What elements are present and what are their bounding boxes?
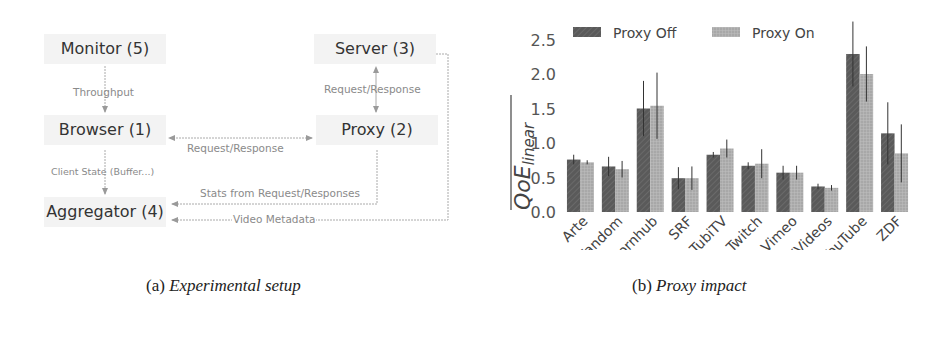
- y-tick-label: 1.5: [531, 100, 556, 119]
- bar-group-youtube: [846, 22, 873, 212]
- caption-a-prefix: (a): [146, 276, 165, 295]
- caption-b-title: Proxy impact: [656, 276, 746, 295]
- bar-proxy-on: [580, 162, 594, 212]
- bar-group-twitch: [741, 149, 768, 212]
- bar-chart: 0.00.51.01.52.02.5 ArteFandomPornhubSRFT…: [500, 0, 951, 250]
- bar-group-srf: [672, 166, 699, 212]
- node-monitor: Monitor (5): [44, 34, 166, 64]
- legend-swatch-proxy-off: [573, 27, 601, 37]
- edge-label-video-metadata: Video Metadata: [232, 213, 316, 225]
- node-server: Server (3): [314, 34, 436, 64]
- bar-proxy-off: [811, 186, 825, 212]
- experimental-setup-diagram: Monitor (5) Server (3) Browser (1) Proxy…: [0, 0, 470, 250]
- bar-group-zdf: [881, 102, 908, 212]
- edge-label-throughput: Throughput: [73, 86, 134, 98]
- bar-proxy-off: [567, 160, 581, 212]
- bar-group-fandom: [602, 157, 629, 212]
- y-tick-label: 2.5: [531, 31, 556, 50]
- legend: Proxy OffProxy On: [573, 25, 815, 41]
- legend-label-proxy-on: Proxy On: [752, 25, 815, 41]
- node-browser: Browser (1): [44, 115, 166, 145]
- svg-text:QoElinear: QoElinear: [510, 122, 538, 210]
- node-proxy: Proxy (2): [316, 115, 438, 145]
- node-aggregator: Aggregator (4): [44, 197, 166, 227]
- bar-proxy-on: [825, 188, 839, 212]
- x-tick-label: ZDF: [873, 213, 904, 244]
- bar-group-pornhub: [637, 73, 664, 212]
- caption-a-title: Experimental setup: [169, 276, 301, 295]
- caption-b: (b) Proxy impact: [632, 276, 747, 296]
- bar-proxy-off: [707, 155, 721, 212]
- bar-group-xvideos: [811, 184, 838, 212]
- x-tick-label: SRF: [665, 213, 695, 243]
- bar-group-tubitv: [707, 140, 734, 212]
- legend-swatch-proxy-on: [712, 27, 740, 37]
- proxy-impact-chart: 0.00.51.01.52.02.5 ArteFandomPornhubSRFT…: [500, 0, 951, 250]
- bar-proxy-off: [741, 166, 755, 212]
- y-tick-label: 2.0: [531, 65, 556, 84]
- edge-label-client-state: Client State (Buffer...): [51, 166, 154, 177]
- bar-group-vimeo: [776, 166, 803, 212]
- caption-a: (a) Experimental setup: [146, 276, 301, 296]
- caption-b-prefix: (b): [632, 276, 652, 295]
- legend-label-proxy-off: Proxy Off: [613, 25, 677, 41]
- bar-group-arte: [567, 155, 594, 212]
- bar-proxy-on: [720, 149, 734, 212]
- edge-label-stats: Stats from Request/Responses: [200, 187, 360, 199]
- edge-label-server-proxy: Request/Response: [324, 83, 421, 95]
- edge-label-browser-proxy: Request/Response: [187, 142, 284, 154]
- x-axis: ArteFandomPornhubSRFTubiTVTwitchVimeoXVi…: [559, 213, 905, 250]
- bars: [567, 22, 908, 212]
